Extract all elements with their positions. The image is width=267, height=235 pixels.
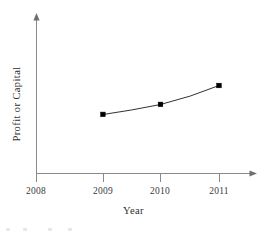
chart-canvas — [0, 0, 267, 235]
data-point-2010 — [158, 102, 163, 107]
y-axis-arrow-icon — [33, 13, 39, 21]
x-axis-title: Year — [0, 205, 267, 216]
x-tick-label-2011: 2011 — [209, 186, 228, 196]
data-point-2009 — [101, 112, 106, 117]
x-axis-arrow-icon — [250, 170, 258, 176]
x-tick-label-2009: 2009 — [93, 186, 113, 196]
data-point-2011 — [217, 83, 222, 88]
x-tick-label-2010: 2010 — [150, 186, 170, 196]
y-axis-title: Profit or Capital — [11, 66, 22, 141]
x-tick-label-2008: 2008 — [26, 186, 46, 196]
line-chart-figure: 2008 2009 2010 2011 Year Profit or Capit… — [0, 0, 267, 235]
series-line-profit-or-capital — [103, 86, 219, 115]
scan-edge-artifact — [6, 228, 86, 233]
